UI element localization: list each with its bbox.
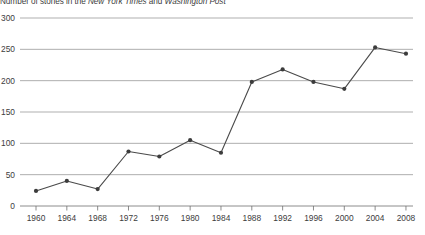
y-axis-tick-label: 200 bbox=[1, 76, 15, 86]
y-axis-tick-label: 50 bbox=[6, 170, 16, 180]
x-axis-tick-label: 1992 bbox=[273, 213, 292, 223]
series-polyline bbox=[36, 47, 406, 191]
y-axis-tick-label: 0 bbox=[10, 201, 15, 211]
data-point-marker bbox=[96, 187, 100, 191]
gridlines bbox=[20, 18, 413, 206]
x-axis-tick-label: 1972 bbox=[119, 213, 138, 223]
chart-container: Number of stories in the New York Times … bbox=[0, 0, 425, 235]
x-axis-tick-label: 1984 bbox=[212, 213, 231, 223]
data-point-marker bbox=[250, 80, 254, 84]
x-axis-tick-label: 1976 bbox=[150, 213, 169, 223]
data-points bbox=[34, 45, 408, 193]
data-point-marker bbox=[311, 80, 315, 84]
chart-plot-area: 050100150200250300 196019641968197219761… bbox=[0, 0, 425, 235]
y-axis-tick-label: 100 bbox=[1, 138, 15, 148]
data-series-line bbox=[36, 47, 406, 191]
data-point-marker bbox=[157, 154, 161, 158]
y-axis-tick-label: 250 bbox=[1, 44, 15, 54]
data-point-marker bbox=[126, 149, 130, 153]
x-axis-tick-label: 2004 bbox=[366, 213, 385, 223]
x-axis-tick-label: 1964 bbox=[58, 213, 77, 223]
x-axis-tick-label: 2008 bbox=[397, 213, 416, 223]
x-axis-tick-label: 1988 bbox=[242, 213, 261, 223]
data-point-marker bbox=[281, 67, 285, 71]
x-axis-tick-label: 2000 bbox=[335, 213, 354, 223]
data-point-marker bbox=[373, 45, 377, 49]
y-axis-tick-label: 300 bbox=[1, 13, 15, 23]
x-axis-tick-label: 1960 bbox=[27, 213, 46, 223]
x-axis-tick-label: 1996 bbox=[304, 213, 323, 223]
data-point-marker bbox=[188, 138, 192, 142]
data-point-marker bbox=[342, 87, 346, 91]
x-axis-labels: 1960196419681972197619801984198819921996… bbox=[27, 213, 416, 223]
data-point-marker bbox=[34, 189, 38, 193]
x-axis-tick-label: 1968 bbox=[88, 213, 107, 223]
data-point-marker bbox=[404, 52, 408, 56]
y-axis-labels: 050100150200250300 bbox=[1, 13, 15, 211]
data-point-marker bbox=[65, 179, 69, 183]
y-axis-tick-label: 150 bbox=[1, 107, 15, 117]
data-point-marker bbox=[219, 151, 223, 155]
x-axis-ticks bbox=[36, 206, 406, 211]
x-axis-tick-label: 1980 bbox=[181, 213, 200, 223]
